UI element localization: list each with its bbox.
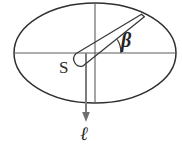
geometry-diagram <box>0 0 182 151</box>
figure-container: β S ℓ <box>0 0 182 151</box>
surface-s-label: S <box>59 59 68 76</box>
downward-arrowhead-icon <box>82 112 90 122</box>
axis-ell-label: ℓ <box>80 124 88 143</box>
needle-pointer <box>74 14 145 66</box>
angle-beta-label: β <box>121 30 131 50</box>
